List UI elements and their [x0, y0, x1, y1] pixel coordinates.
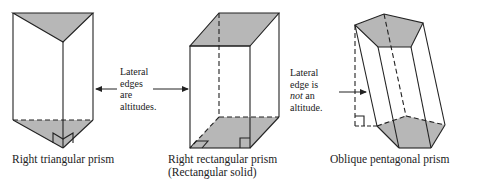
- caption-rectangular-solid: (Rectangular solid): [168, 166, 256, 179]
- note-emphasis: not: [290, 90, 303, 101]
- note-line: are: [120, 89, 156, 101]
- right-angle-marker: [355, 116, 364, 126]
- top-pentagon-face: [355, 14, 423, 47]
- note-line: Lateral: [120, 66, 156, 78]
- note-lateral-edge-not-altitude: Lateral edge is not an altitude.: [290, 67, 323, 113]
- right-triangular-prism: [13, 13, 93, 148]
- caption-right-rectangular-prism: Right rectangular prism: [168, 153, 277, 166]
- bottom-face: [190, 117, 279, 148]
- right-rectangular-prism: [190, 13, 279, 148]
- oblique-pentagonal-prism: [355, 14, 445, 148]
- note-line: altitude.: [290, 102, 323, 114]
- caption-oblique-pentagonal-prism: Oblique pentagonal prism: [330, 153, 449, 166]
- top-face: [190, 13, 279, 46]
- note-lateral-edges-are-altitudes: Lateral edges are altitudes.: [120, 66, 156, 112]
- note-line: Lateral: [290, 67, 323, 79]
- note-text: an: [303, 90, 315, 101]
- note-line: edges: [120, 78, 156, 90]
- top-triangle-face: [13, 13, 93, 42]
- note-line: not an: [290, 90, 323, 102]
- note-line: edge is: [290, 79, 323, 91]
- bottom-pentagon-face: [377, 116, 445, 148]
- note-line: altitudes.: [120, 101, 156, 113]
- caption-right-triangular-prism: Right triangular prism: [12, 153, 114, 166]
